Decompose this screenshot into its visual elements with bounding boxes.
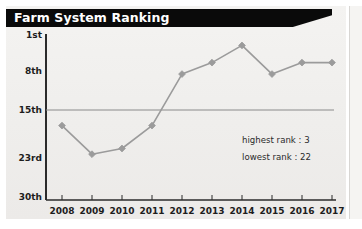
lowest-rank-annotation: lowest rank : 22	[242, 152, 311, 162]
data-point-marker	[209, 59, 216, 66]
data-point-marker	[329, 59, 336, 66]
x-tick-label: 2013	[199, 206, 224, 216]
highest-rank-annotation: highest rank : 3	[242, 135, 310, 145]
x-tick-label: 2008	[49, 206, 74, 216]
data-point-marker	[179, 71, 186, 78]
x-tick-label: 2017	[319, 206, 344, 216]
chart-axes	[46, 34, 336, 200]
chart-svg: 1st 8th 15th 23rd 30th 200	[6, 28, 346, 219]
screenshot-root: Farm System Ranking 1st 8th 15th 23rd 30…	[0, 0, 362, 229]
chart-annotations: highest rank : 3 lowest rank : 22	[242, 135, 311, 162]
x-tick-label: 2010	[109, 206, 134, 216]
x-tick-label: 2016	[289, 206, 314, 216]
y-tick-label: 1st	[26, 30, 43, 40]
line-chart: 1st 8th 15th 23rd 30th 200	[6, 28, 346, 219]
x-axis-labels: 2008 2009 2010 2011 2012 2013 2014 2015 …	[49, 206, 344, 216]
page-gutter	[349, 6, 362, 219]
data-point-marker	[299, 59, 306, 66]
y-tick-label: 30th	[19, 192, 42, 202]
y-tick-label: 23rd	[19, 153, 42, 163]
x-tick-label: 2015	[259, 206, 284, 216]
x-tick-label: 2011	[139, 206, 164, 216]
x-tick-label: 2012	[169, 206, 194, 216]
y-tick-label: 8th	[25, 66, 42, 76]
page-title: Farm System Ranking	[14, 10, 170, 26]
x-tick-label: 2009	[79, 206, 104, 216]
x-tick-label: 2014	[229, 206, 254, 216]
y-tick-label: 15th	[19, 105, 42, 115]
y-axis-labels: 1st 8th 15th 23rd 30th	[19, 30, 43, 202]
